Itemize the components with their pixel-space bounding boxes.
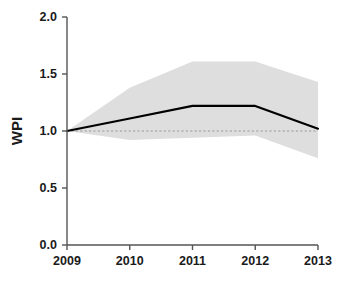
y-tick-label: 1.0	[40, 124, 57, 138]
x-tick-label: 2011	[179, 254, 206, 268]
y-tick-label: 0.5	[40, 181, 57, 195]
x-tick-label: 2013	[304, 254, 332, 268]
y-tick-label: 2.0	[40, 10, 57, 24]
y-axis-title: WPI	[8, 117, 25, 145]
y-tick-label: 0.0	[40, 238, 57, 252]
wpi-line-chart: 0.00.51.01.52.0 20092010201120122013 WPI	[0, 0, 338, 289]
y-tick-label: 1.5	[40, 67, 57, 81]
x-tick-label: 2009	[53, 254, 81, 268]
uncertainty-band	[67, 61, 318, 158]
x-tick-labels: 20092010201120122013	[53, 254, 332, 268]
y-axis	[62, 17, 67, 245]
plot-area: 0.00.51.01.52.0 20092010201120122013 WPI	[0, 0, 338, 289]
x-axis-ticks	[67, 245, 318, 250]
x-tick-label: 2010	[116, 254, 144, 268]
x-axis	[67, 245, 318, 250]
y-axis-ticks	[62, 17, 67, 245]
y-tick-labels: 0.00.51.01.52.0	[40, 10, 57, 252]
x-tick-label: 2012	[241, 254, 269, 268]
